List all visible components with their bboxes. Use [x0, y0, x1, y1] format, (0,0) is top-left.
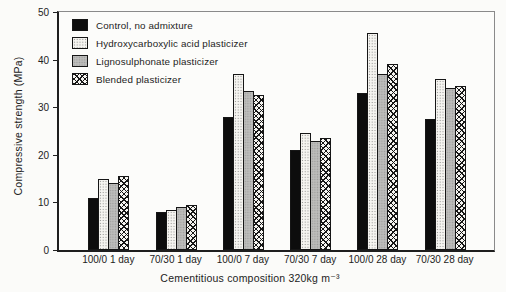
x-axis-label: 100/0 28 day: [348, 254, 406, 265]
y-tick-label: 0: [43, 245, 49, 256]
legend-item-control-no-admixture: Control, no admixture: [72, 19, 248, 31]
x-axis-label: 70/30 1 day: [149, 254, 201, 265]
y-tick-label: 10: [38, 197, 49, 208]
y-tick-label: 30: [38, 102, 49, 113]
bar-group-70-30-7-day: 70/30 7 day: [290, 12, 330, 250]
x-axis-label: 70/30 28 day: [416, 254, 474, 265]
figure-compressive-strength-chart: Compressive strength (MPa) 01020304050 C…: [0, 0, 506, 292]
bar-blended-plasticizer: [186, 205, 197, 250]
bar-blended-plasticizer: [387, 64, 398, 250]
bar-blended-plasticizer: [455, 86, 466, 250]
legend-item-lignosulphonate-plasticizer: Lignosulphonate plasticizer: [72, 55, 248, 67]
legend-swatch-solid-black-icon: [72, 19, 88, 31]
legend-item-blended-plasticizer: Blended plasticizer: [72, 73, 248, 85]
legend-label: Blended plasticizer: [96, 74, 181, 85]
bar-group-70-30-28-day: 70/30 28 day: [425, 12, 465, 250]
legend-swatch-stipple-white-icon: [72, 37, 88, 49]
legend-label: Hydroxycarboxylic acid plasticizer: [96, 38, 248, 49]
x-axis-label: 70/30 7 day: [284, 254, 336, 265]
x-axis-label: 100/0 1 day: [82, 254, 134, 265]
legend-swatch-crosshatch-icon: [72, 73, 88, 85]
bar-blended-plasticizer: [118, 176, 129, 250]
y-tick-label: 40: [38, 54, 49, 65]
y-axis-title: Compressive strength (MPa): [12, 46, 24, 206]
legend-label: Lignosulphonate plasticizer: [96, 56, 218, 67]
y-tick-mark: [53, 250, 59, 251]
x-axis-label: 100/0 7 day: [217, 254, 269, 265]
legend: Control, no admixtureHydroxycarboxylic a…: [72, 19, 248, 85]
legend-label: Control, no admixture: [96, 20, 193, 31]
plot-area: 01020304050 Control, no admixtureHydroxy…: [57, 11, 495, 252]
x-axis-title: Cementitious composition 320kg m⁻³: [20, 272, 480, 284]
bar-blended-plasticizer: [253, 95, 264, 250]
bar-group-100-0-28-day: 100/0 28 day: [357, 12, 397, 250]
bar-blended-plasticizer: [320, 138, 331, 250]
y-tick-label: 50: [38, 7, 49, 18]
y-tick-label: 20: [38, 149, 49, 160]
legend-swatch-gray-dotted-icon: [72, 55, 88, 67]
legend-item-hydroxycarboxylic-acid-plasticizer: Hydroxycarboxylic acid plasticizer: [72, 37, 248, 49]
